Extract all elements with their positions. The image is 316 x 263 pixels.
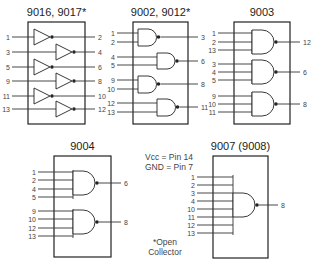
pin-label-output: 8: [201, 81, 205, 88]
pin-label-input: 1: [212, 30, 216, 37]
inverter-symbol: [34, 29, 50, 45]
pin-label-output: 12: [303, 39, 311, 46]
pin-label-input: 3: [6, 49, 10, 56]
pin-label-output: 6: [124, 180, 128, 187]
pin-label-input: 9: [32, 208, 36, 215]
pin-label-input: 4: [32, 186, 36, 193]
pin-label-input: 4: [212, 69, 216, 76]
gate: 3456: [212, 60, 307, 84]
pin-label-output: 2: [98, 34, 102, 41]
pin-label-output: 12: [98, 106, 106, 113]
gate: 123: [111, 29, 205, 46]
vcc-note: Vcc = Pin 14: [145, 152, 193, 162]
chip-title: 9016, 9017*: [27, 6, 87, 18]
gate: 121312: [208, 30, 311, 55]
chip-title: 9002, 9012*: [131, 6, 191, 18]
inversion-bubble: [157, 35, 161, 39]
inversion-bubble: [157, 82, 161, 86]
pin-label-output: 6: [98, 64, 102, 71]
inversion-bubble: [50, 94, 54, 98]
gnd-note: GND = Pin 7: [145, 162, 193, 172]
pin-label-input: 10: [107, 86, 115, 93]
gate: 12: [6, 29, 102, 45]
gate: 12456: [32, 169, 128, 201]
pin-label-input: 1: [6, 34, 10, 41]
pin-label-input: 13: [2, 106, 10, 113]
nand-gate-symbol: [138, 76, 157, 93]
pin-label-input: 11: [188, 214, 195, 221]
pin-label-output: 6: [201, 58, 205, 65]
pin-label-output: 10: [98, 93, 106, 100]
inversion-bubble: [175, 59, 179, 63]
pin-label-output: 8: [98, 78, 102, 85]
pin-label-input: 4: [111, 54, 115, 61]
pin-label-input: 10: [208, 101, 216, 108]
gate: 1234101112138: [187, 174, 285, 237]
open-collector-note-line2: Collector: [148, 247, 182, 257]
pin-label-output: 8: [124, 219, 128, 226]
chip-9004: 90041245691012138: [28, 140, 128, 257]
nand-gate-symbol: [252, 30, 274, 54]
pin-label-input: 12: [187, 222, 195, 229]
pin-label-input: 12: [28, 225, 36, 232]
pin-label-input: 9: [111, 77, 115, 84]
gate: 121311: [107, 99, 208, 116]
inversion-bubble: [72, 79, 76, 83]
chip-title: 9007 (9008): [211, 140, 270, 152]
pin-label-output: 3: [201, 34, 205, 41]
pin-label-input: 5: [6, 64, 10, 71]
nand-gate-symbol: [138, 29, 157, 46]
inversion-bubble: [50, 65, 54, 69]
pin-label-input: 1: [111, 30, 115, 37]
inverter-symbol: [34, 88, 50, 104]
open-collector-note: *Open: [153, 237, 177, 247]
pin-label-output: 8: [303, 101, 307, 108]
gate: 1110: [3, 88, 106, 104]
chip-title: 9003: [250, 6, 274, 18]
inversion-bubble: [95, 220, 99, 224]
pin-label-input: 9: [212, 93, 216, 100]
pin-label-input: 2: [191, 182, 195, 189]
gate: 910118: [208, 92, 307, 116]
gate: 34: [6, 44, 102, 60]
pin-label-input: 5: [32, 194, 36, 201]
gate: 56: [6, 59, 102, 75]
chip-9003: 90031213123456910118: [208, 6, 311, 124]
pin-label-input: 2: [212, 39, 216, 46]
nand-gate-symbol: [252, 92, 274, 116]
pin-label-input: 1: [191, 174, 195, 181]
pin-label-input: 11: [209, 109, 216, 116]
pin-label-input: 10: [187, 206, 195, 213]
gate: 1312: [2, 101, 106, 117]
nand-gate-symbol: [157, 99, 176, 116]
inversion-bubble: [72, 50, 76, 54]
gate: 91012138: [28, 208, 128, 240]
pin-label-output: 8: [281, 202, 285, 209]
pin-label-input: 5: [111, 62, 115, 69]
nand-gate-symbol: [157, 53, 175, 69]
inverter-symbol: [34, 59, 50, 75]
logic-ic-pinout-diagram: 9016, 9017*12345698111013129002, 9012*12…: [0, 0, 316, 263]
pin-label-input: 13: [187, 230, 195, 237]
inverter-symbol: [56, 101, 72, 117]
nand-gate-symbol: [252, 60, 274, 84]
pin-label-input: 12: [107, 100, 115, 107]
pin-label-input: 9: [6, 78, 10, 85]
chip-9016: 9016, 9017*1234569811101312: [2, 6, 106, 124]
pin-label-input: 2: [32, 177, 36, 184]
nand-gate-symbol: [233, 193, 255, 217]
inversion-bubble: [50, 35, 54, 39]
gate: 456: [111, 53, 205, 69]
pin-label-input: 13: [107, 109, 115, 116]
chip-9002: 9002, 9012*1234569108121311: [107, 6, 208, 124]
inversion-bubble: [95, 181, 99, 185]
pin-label-output: 6: [303, 69, 307, 76]
pin-label-input: 3: [212, 61, 216, 68]
pin-label-input: 11: [3, 93, 10, 100]
inversion-bubble: [72, 107, 76, 111]
inversion-bubble: [274, 40, 278, 44]
pin-label-input: 3: [191, 190, 195, 197]
pin-label-input: 2: [111, 39, 115, 46]
pin-label-output: 4: [98, 49, 102, 56]
pin-label-input: 13: [28, 233, 36, 240]
